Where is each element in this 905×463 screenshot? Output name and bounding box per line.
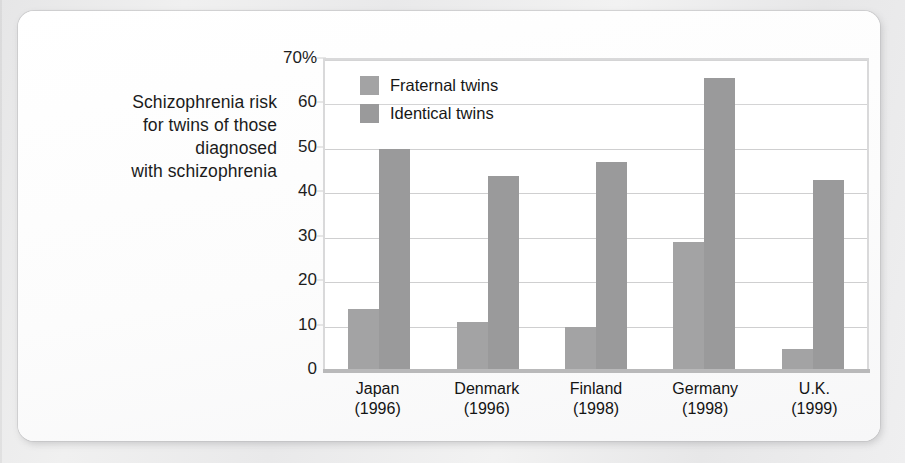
x-axis-category-label: Germany(1998) — [651, 379, 760, 419]
bar-identical — [704, 78, 735, 371]
x-axis-category-label: Finland(1998) — [541, 379, 650, 419]
x-axis-category-label: Denmark(1996) — [432, 379, 541, 419]
x-axis-year: (1998) — [651, 399, 760, 419]
x-axis-country: Germany — [651, 379, 760, 399]
x-axis-year: (1996) — [432, 399, 541, 419]
y-axis-tick-label: 40 — [265, 181, 317, 201]
x-axis-year: (1999) — [760, 399, 869, 419]
legend-label: Identical twins — [390, 104, 494, 123]
plot-area: Fraternal twinsIdentical twins — [323, 58, 869, 371]
chart-legend: Fraternal twinsIdentical twins — [360, 76, 498, 132]
bar-group — [759, 60, 867, 371]
bar-identical — [379, 149, 410, 371]
y-axis-tick-label: 30 — [265, 226, 317, 246]
x-axis-category-label: U.K.(1999) — [760, 379, 869, 419]
y-axis-tick-label: 70% — [265, 48, 317, 68]
bar-fraternal — [782, 349, 813, 371]
y-axis-tick-label: 60 — [265, 92, 317, 112]
bar-fraternal — [565, 327, 596, 371]
legend-swatch-icon — [360, 76, 379, 95]
bar-group — [542, 60, 650, 371]
plot-inner: Fraternal twinsIdentical twins — [325, 60, 867, 371]
legend-item: Fraternal twins — [360, 76, 498, 95]
caption-line-1: Schizophrenia risk — [62, 91, 277, 114]
x-axis-year: (1996) — [323, 399, 432, 419]
figure-card: Schizophrenia risk for twins of those di… — [18, 11, 880, 441]
legend-item: Identical twins — [360, 104, 498, 123]
bar-fraternal — [673, 242, 704, 371]
bar-group — [650, 60, 758, 371]
caption-line-2: for twins of those — [62, 114, 277, 137]
x-axis-category-label: Japan(1996) — [323, 379, 432, 419]
legend-swatch-icon — [360, 104, 379, 123]
legend-label: Fraternal twins — [390, 76, 498, 95]
y-axis-tick-label: 0 — [265, 359, 317, 379]
y-axis-tick-label: 10 — [265, 315, 317, 335]
caption-line-3: diagnosed — [62, 137, 277, 160]
bar-fraternal — [348, 309, 379, 371]
x-axis-country: Japan — [323, 379, 432, 399]
x-axis-labels: Japan(1996)Denmark(1996)Finland(1998)Ger… — [323, 379, 869, 419]
x-axis-year: (1998) — [541, 399, 650, 419]
x-axis-country: Denmark — [432, 379, 541, 399]
bar-identical — [596, 162, 627, 371]
caption-line-4: with schizophrenia — [62, 160, 277, 183]
y-axis: 70%6050403020100 — [261, 58, 317, 369]
x-axis-line — [323, 369, 870, 373]
bar-fraternal — [457, 322, 488, 371]
figure-caption: Schizophrenia risk for twins of those di… — [62, 91, 277, 183]
bar-identical — [488, 176, 519, 371]
x-axis-country: Finland — [541, 379, 650, 399]
x-axis-country: U.K. — [760, 379, 869, 399]
bar-identical — [813, 180, 844, 371]
y-axis-tick-label: 20 — [265, 270, 317, 290]
y-axis-tick-label: 50 — [265, 137, 317, 157]
